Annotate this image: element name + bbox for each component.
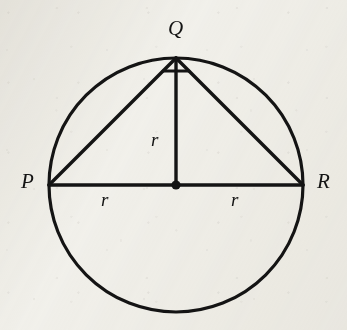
length-label-r-left: r xyxy=(101,190,108,209)
centre-point-dot xyxy=(171,180,180,189)
geometry-diagram-canvas xyxy=(0,0,347,330)
point-label-R: R xyxy=(317,171,330,192)
length-label-r-right: r xyxy=(231,190,238,209)
segment-PQ xyxy=(49,58,176,185)
geometry-figure-page: P Q R r r r xyxy=(0,0,347,330)
point-label-P: P xyxy=(21,171,34,192)
point-label-Q: Q xyxy=(168,18,183,39)
segment-QR xyxy=(176,58,303,185)
length-label-r-vertical: r xyxy=(151,130,158,149)
